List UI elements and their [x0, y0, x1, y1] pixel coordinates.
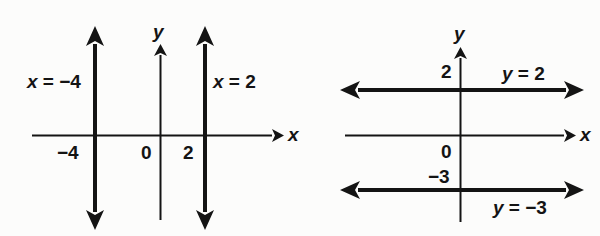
x-axis-line: [32, 129, 284, 142]
line-y-2-left-arrowhead: [340, 81, 360, 99]
line-x-2-bottom-arrowhead: [196, 210, 214, 230]
equation-label-y-equals-neg3: y = −3: [493, 198, 547, 217]
left-tick-label-neg4: −4: [57, 143, 79, 162]
y-axis-arrowhead: [154, 44, 167, 56]
line-x-neg4-top-arrowhead: [86, 26, 104, 46]
x-axis-arrowhead-right: [564, 129, 576, 142]
y-axis-arrowhead-right: [454, 47, 467, 59]
line-x-neg4-bottom-arrowhead: [86, 210, 104, 230]
equation-value-neg4: = −4: [38, 71, 81, 92]
left-graph-panel: y x −4 0 2 x = −4 x = 2: [0, 0, 300, 236]
right-tick-label-0: 0: [441, 142, 452, 161]
figure-container: y x −4 0 2 x = −4 x = 2: [0, 0, 600, 236]
line-x-equals-neg4: [86, 26, 104, 230]
line-y-equals-2: [340, 81, 584, 99]
equation-label-y-equals-2: y = 2: [502, 64, 545, 83]
right-y-axis-label: y: [454, 24, 465, 43]
right-graph-svg: [300, 0, 600, 236]
right-tick-label-2: 2: [441, 62, 452, 81]
left-graph-svg: [0, 0, 300, 236]
left-y-axis-label: y: [153, 22, 164, 41]
line-y-2-right-arrowhead: [564, 81, 584, 99]
x-axis-arrowhead: [272, 129, 284, 142]
right-x-axis-label: x: [580, 125, 591, 144]
left-tick-label-0: 0: [141, 143, 152, 162]
equation-value-2: = 2: [224, 71, 256, 92]
line-y-equals-neg3: [340, 181, 584, 199]
line-x-2-top-arrowhead: [196, 26, 214, 46]
equation-label-x-equals-neg4: x = −4: [27, 72, 81, 91]
equation-variable-y-2: y: [493, 197, 504, 218]
line-y-neg3-right-arrowhead: [564, 181, 584, 199]
left-x-axis-label: x: [288, 125, 299, 144]
line-x-equals-2: [196, 26, 214, 230]
right-graph-panel: y x 2 0 −3 y = 2 y = −3: [300, 0, 600, 236]
equation-variable-x-2: x: [213, 71, 224, 92]
equation-variable-y: y: [502, 63, 513, 84]
equation-variable-x: x: [27, 71, 38, 92]
y-axis-line: [154, 44, 167, 220]
equation-value-y-2: = 2: [513, 63, 545, 84]
right-tick-label-neg3: −3: [428, 167, 450, 186]
left-tick-label-2: 2: [183, 143, 194, 162]
line-y-neg3-left-arrowhead: [340, 181, 360, 199]
equation-value-y-neg3: = −3: [504, 197, 547, 218]
equation-label-x-equals-2: x = 2: [213, 72, 256, 91]
